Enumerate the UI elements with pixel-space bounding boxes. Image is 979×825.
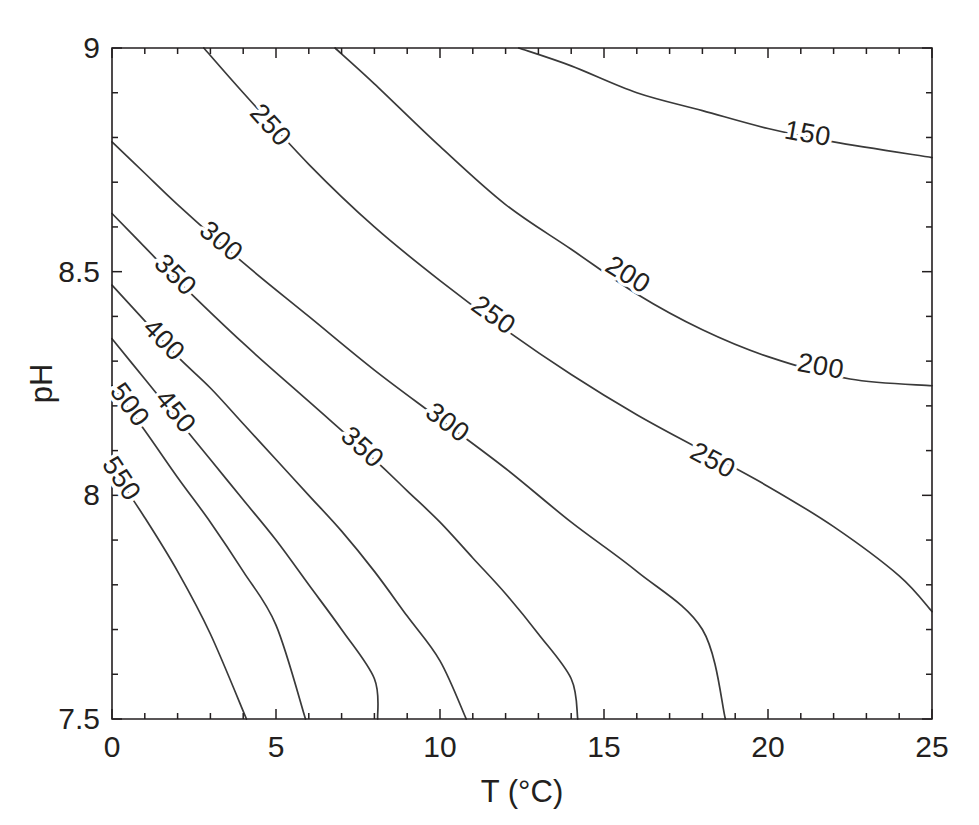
contour-label-150: 150 [782, 115, 833, 153]
contour-labels-group: 1502002002502502503003003503504004505005… [96, 98, 846, 507]
contour-label-300-2: 300 [420, 396, 475, 448]
contour-label-250-3: 250 [685, 436, 740, 485]
contour-label-450: 450 [149, 384, 202, 439]
contour-plot-canvas: 05101520257.588.59 150200200250250250300… [0, 0, 979, 825]
x-axis-title: T (°C) [481, 774, 563, 809]
x-tick-label-20: 20 [751, 730, 784, 763]
contour-label-350: 350 [148, 248, 202, 302]
y-axis-title: pH [24, 364, 59, 404]
contour-line-500 [112, 386, 306, 719]
contour-line-200 [335, 48, 932, 386]
x-tick-label-5: 5 [268, 730, 285, 763]
x-tick-label-15: 15 [587, 730, 620, 763]
contour-plot-figure: 05101520257.588.59 150200200250250250300… [0, 0, 979, 825]
contour-line-550 [112, 468, 246, 719]
y-tick-label-7.5: 7.5 [58, 702, 100, 735]
contour-label-200-2: 200 [795, 347, 846, 385]
contour-line-150 [519, 48, 932, 158]
x-tick-label-0: 0 [104, 730, 121, 763]
x-tick-label-10: 10 [423, 730, 456, 763]
contour-label-550: 550 [96, 451, 147, 506]
contour-label-200: 200 [600, 250, 655, 300]
y-tick-label-8: 8 [83, 478, 100, 511]
y-tick-label-8.5: 8.5 [58, 255, 100, 288]
x-tick-label-25: 25 [915, 730, 948, 763]
y-tick-label-9: 9 [83, 31, 100, 64]
contour-label-250-2: 250 [466, 289, 521, 340]
